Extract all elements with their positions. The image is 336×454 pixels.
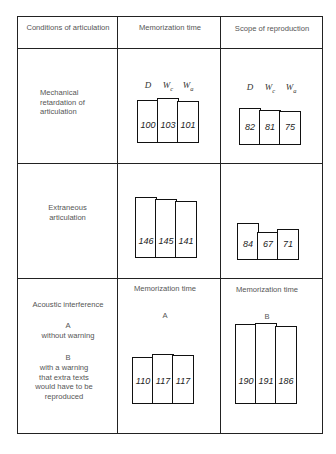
- series-label-d: D: [240, 82, 260, 92]
- col3-sub: B: [226, 312, 308, 322]
- row-divider-2: [17, 278, 323, 279]
- bar: 71: [277, 229, 299, 260]
- bar: 75: [279, 111, 301, 145]
- series-label-wc: Wc: [260, 82, 280, 94]
- bar: 81: [259, 110, 281, 145]
- row3-condition: Acoustic interference: [22, 300, 114, 310]
- bar: 110: [132, 357, 154, 404]
- bar: 103: [157, 98, 179, 143]
- option-b-letter: B: [22, 353, 114, 363]
- bar: 100: [137, 100, 159, 143]
- series-label-wa: Wa: [178, 80, 198, 92]
- bar: 117: [172, 355, 194, 404]
- bar: 141: [175, 201, 197, 258]
- option-a-text: without warning: [22, 331, 114, 341]
- col2-sub: A: [124, 311, 206, 321]
- row-divider-1: [17, 163, 323, 164]
- option-a-letter: A: [22, 321, 114, 331]
- bar: 67: [257, 232, 279, 260]
- series-label-d: D: [138, 80, 158, 90]
- bar: 84: [237, 223, 259, 260]
- bar: 117: [152, 354, 174, 404]
- col-divider-1: [117, 16, 118, 434]
- bar: 190: [235, 324, 257, 404]
- option-b-text: with a warning that extra texts would ha…: [34, 363, 94, 401]
- header-scope: Scope of reproduction: [226, 24, 318, 34]
- header-divider: [17, 48, 323, 49]
- col3-title: Memorization time: [226, 285, 308, 295]
- col-divider-2: [220, 16, 221, 434]
- bar: 191: [255, 323, 277, 404]
- row1-condition: Mechanical retardation of articulation: [40, 88, 100, 117]
- bar: 101: [177, 101, 199, 143]
- series-label-wc: Wc: [158, 80, 178, 92]
- col2-title: Memorization time: [124, 284, 206, 294]
- bar: 145: [155, 199, 177, 258]
- bar: 186: [275, 326, 297, 404]
- bar: 146: [135, 197, 157, 258]
- bar: 82: [239, 108, 261, 145]
- header-conditions: Conditions of articulation: [22, 23, 114, 33]
- header-memorization-time: Memorization time: [124, 23, 216, 33]
- row2-condition: Extraneous articulation: [30, 203, 105, 222]
- series-label-wa: Wa: [281, 82, 301, 94]
